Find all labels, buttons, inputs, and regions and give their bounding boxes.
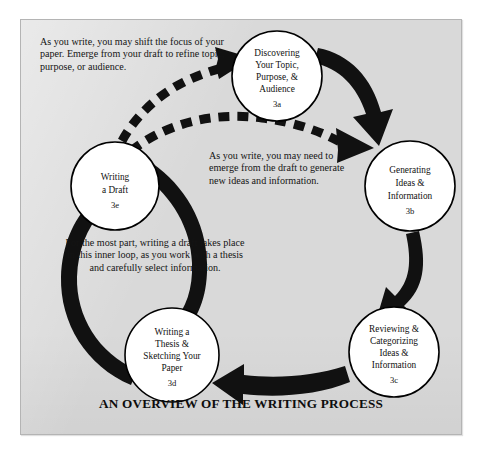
node-3a-code: 3a	[273, 99, 281, 109]
annotation-inner-loop: For the most part, writing a draft takes…	[62, 237, 248, 274]
node-3d-label: Sketching Your	[143, 351, 201, 361]
node-3a-label: Audience	[259, 84, 295, 94]
node-3d-label: Thesis &	[155, 339, 190, 349]
node-3c-label: Information	[372, 360, 417, 370]
node-3b-code: 3b	[406, 206, 415, 216]
figure-caption: AN OVERVIEW OF THE WRITING PROCESS	[20, 396, 462, 412]
node-3e-code: 3e	[111, 200, 119, 210]
node-3c-code: 3c	[390, 375, 398, 385]
node-3a-label: Your Topic,	[255, 60, 299, 70]
node-3e-label: a Draft	[102, 185, 128, 195]
annotation-shift-focus: As you write, you may shift the focus of…	[40, 36, 230, 73]
annotation-emerge-from-draft: As you write, you may need to emerge fro…	[209, 150, 361, 187]
node-3a[interactable]: Discovering Your Topic, Purpose, & Audie…	[232, 31, 322, 121]
node-3d-label: Paper	[161, 363, 183, 373]
node-3c-label: Reviewing &	[369, 324, 420, 334]
node-3e-label: Writing	[101, 172, 130, 182]
node-3c-label: Ideas &	[379, 348, 409, 358]
node-3d-code: 3d	[168, 378, 177, 388]
node-3b-label: Generating	[389, 165, 431, 175]
node-3b-label: Information	[388, 191, 433, 201]
writing-process-figure: Discovering Your Topic, Purpose, & Audie…	[0, 0, 483, 451]
node-3d[interactable]: Writing a Thesis & Sketching Your Paper …	[125, 308, 219, 402]
node-3a-label: Discovering	[254, 48, 300, 58]
node-3c[interactable]: Reviewing & Categorizing Ideas & Informa…	[349, 307, 439, 397]
flow-3a-to-3b	[314, 48, 393, 146]
node-3b-label: Ideas &	[395, 178, 425, 188]
node-3d-label: Writing a	[155, 327, 190, 337]
node-3b[interactable]: Generating Ideas & Information 3b	[365, 141, 455, 231]
node-3c-label: Categorizing	[370, 336, 418, 346]
node-3e[interactable]: Writing a Draft 3e	[71, 142, 159, 230]
node-3a-label: Purpose, &	[256, 72, 299, 82]
